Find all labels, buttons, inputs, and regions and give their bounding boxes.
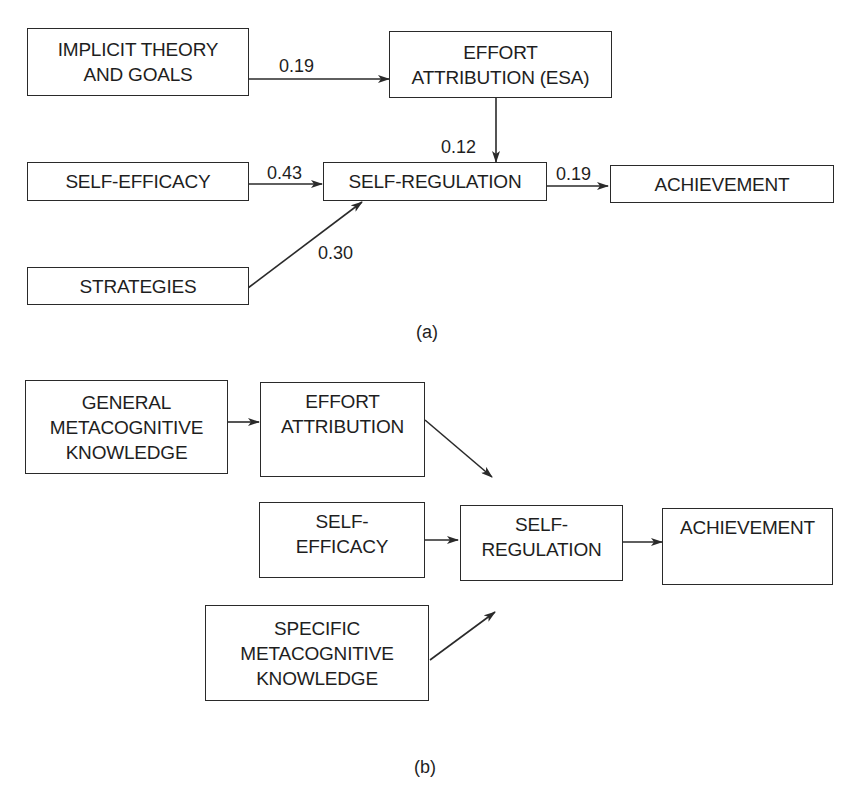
node-self-regulation: SELF-REGULATION — [323, 162, 547, 201]
path-coefficient: 0.30 — [318, 243, 353, 263]
path-coefficient: 0.19 — [279, 56, 314, 76]
node-label-line: ATTRIBUTION — [281, 414, 404, 439]
node-achievement-b: ACHIEVEMENT — [662, 508, 833, 585]
node-label-line: ACHIEVEMENT — [654, 172, 789, 197]
node-label-line: SELF-EFFICACY — [65, 169, 210, 194]
node-label-line: METACOGNITIVE — [240, 641, 393, 666]
node-effort-attribution: EFFORT ATTRIBUTION — [260, 382, 425, 477]
node-label-line: AND GOALS — [83, 62, 192, 87]
node-label-line: METACOGNITIVE — [50, 415, 203, 440]
node-label-line: EFFORT — [305, 389, 379, 414]
node-achievement: ACHIEVEMENT — [610, 165, 834, 203]
node-implicit-theory-goals: IMPLICIT THEORY AND GOALS — [27, 28, 249, 96]
node-label-line: SELF- — [515, 512, 568, 537]
node-label-line: GENERAL — [82, 390, 171, 415]
node-self-efficacy: SELF-EFFICACY — [27, 162, 249, 201]
node-label-line: STRATEGIES — [80, 274, 197, 299]
node-self-efficacy-b: SELF- EFFICACY — [259, 502, 425, 578]
node-label-line: EFFICACY — [296, 534, 388, 559]
node-label-line: ACHIEVEMENT — [680, 515, 815, 540]
node-general-metacognitive-knowledge: GENERAL METACOGNITIVE KNOWLEDGE — [25, 380, 228, 474]
arrow-specific-to-selfreg-b — [430, 612, 495, 660]
arrow-effort-to-selfreg-b — [425, 420, 492, 477]
node-specific-metacognitive-knowledge: SPECIFIC METACOGNITIVE KNOWLEDGE — [205, 605, 429, 701]
path-coefficient: 0.19 — [556, 164, 591, 184]
node-self-regulation-b: SELF- REGULATION — [460, 505, 623, 581]
node-label-line: KNOWLEDGE — [256, 666, 378, 691]
node-label-line: IMPLICIT THEORY — [58, 37, 219, 62]
node-label-line: EFFORT — [463, 40, 537, 65]
node-label-line: KNOWLEDGE — [66, 440, 188, 465]
panel-b-caption: (b) — [414, 757, 436, 777]
node-label-line: REGULATION — [481, 537, 601, 562]
panel-a-caption: (a) — [416, 322, 438, 342]
node-strategies: STRATEGIES — [27, 267, 249, 305]
node-effort-attribution-esa: EFFORT ATTRIBUTION (ESA) — [389, 31, 612, 98]
node-label-line: SELF-REGULATION — [349, 169, 522, 194]
node-label-line: SPECIFIC — [274, 616, 360, 641]
node-label-line: SELF- — [316, 509, 369, 534]
path-coefficient: 0.12 — [441, 137, 476, 157]
path-coefficient: 0.43 — [267, 163, 302, 183]
node-label-line: ATTRIBUTION (ESA) — [412, 65, 590, 90]
